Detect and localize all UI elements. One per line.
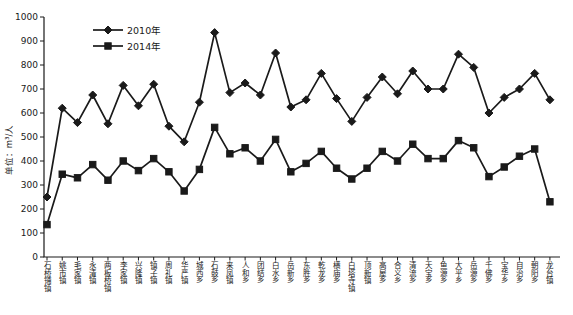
data-point-square [394, 158, 400, 164]
legend-label: 2010年 [127, 25, 161, 36]
data-point-square [135, 167, 141, 173]
water-per-capita-line-chart: 01002003004005006007008009001000单位：m³/人石… [0, 0, 573, 315]
y-tick-label: 0 [32, 252, 38, 262]
y-tick-label: 900 [21, 36, 38, 46]
data-point-square [59, 171, 65, 177]
x-category-label: 岳源乡 [470, 260, 478, 285]
data-point-diamond [226, 89, 234, 97]
data-point-square [349, 176, 355, 182]
x-category-label: 高屋乡 [379, 260, 387, 285]
y-tick-label: 1000 [15, 12, 38, 22]
x-category-label: 自治乡 [516, 260, 524, 285]
legend-diamond-icon [104, 26, 112, 34]
data-point-square [425, 155, 431, 161]
legend-label: 2014年 [127, 41, 161, 52]
y-axis-title: 单位：m³/人 [4, 125, 14, 176]
y-tick-label: 800 [21, 60, 38, 70]
data-point-square [196, 166, 202, 172]
x-category-label: 兴隆镇 [135, 261, 143, 285]
x-category-label: 华严镇 [181, 260, 189, 285]
x-category-label: 白塔寺镇 [348, 260, 356, 293]
y-tick-label: 300 [21, 180, 38, 190]
y-tick-label: 200 [21, 204, 38, 214]
data-point-square [120, 158, 126, 164]
data-point-square [211, 124, 217, 130]
data-point-square [333, 165, 339, 171]
data-point-square [379, 148, 385, 154]
x-category-label: 人和乡 [242, 261, 250, 285]
data-point-square [288, 169, 294, 175]
x-category-label: 清流乡 [409, 260, 417, 285]
y-tick-label: 700 [21, 84, 38, 94]
data-point-square [150, 155, 156, 161]
data-point-diamond [211, 29, 219, 37]
data-point-diamond [546, 96, 554, 104]
x-category-label: 朝阳乡 [531, 261, 538, 285]
data-point-square [471, 145, 477, 151]
y-tick-label: 400 [21, 156, 38, 166]
x-category-label: 鱼源乡 [440, 260, 448, 285]
x-category-label: 龙台镇 [546, 260, 554, 285]
x-category-label: 宝华乡 [501, 260, 509, 285]
chart-canvas: 01002003004005006007008009001000单位：m³/人石… [0, 0, 573, 315]
data-point-square [364, 165, 370, 171]
data-point-diamond [317, 69, 325, 77]
x-category-label: 来凤镇 [226, 261, 234, 285]
x-category-label: 乾龙乡 [318, 260, 326, 285]
x-category-label: 东胜乡 [303, 260, 311, 285]
axes [44, 17, 560, 257]
data-point-square [440, 155, 446, 161]
x-category-label: 姚市镇 [59, 260, 67, 285]
x-category-label: 天宝乡 [425, 261, 433, 285]
data-point-square [181, 188, 187, 194]
data-point-square [257, 158, 263, 164]
x-category-label: 李家镇 [120, 260, 128, 285]
data-point-square [531, 146, 537, 152]
data-point-square [455, 137, 461, 143]
x-category-label: 岳新乡 [287, 260, 295, 285]
y-tick-label: 500 [21, 132, 38, 142]
x-category-label: 永清镇 [89, 260, 97, 285]
data-point-square [516, 153, 522, 159]
data-point-diamond [287, 103, 295, 111]
data-point-square [44, 221, 50, 227]
y-tick-label: 100 [21, 228, 38, 238]
y-tick-label: 600 [21, 108, 38, 118]
x-category-label: 横庙乡 [333, 260, 341, 285]
x-category-label: 大平乡 [455, 260, 463, 285]
data-point-square [318, 148, 324, 154]
data-point-square [90, 161, 96, 167]
data-point-diamond [89, 91, 97, 99]
data-point-square [242, 145, 248, 151]
data-point-square [166, 169, 172, 175]
legend-square-icon [105, 43, 111, 49]
data-point-square [105, 177, 111, 183]
data-point-square [486, 173, 492, 179]
x-category-label: 两板桥镇 [104, 261, 112, 293]
data-point-diamond [439, 85, 447, 93]
series-line-2014年 [47, 127, 550, 224]
x-category-label: 白水乡 [272, 260, 280, 285]
series-line-2010年 [47, 33, 550, 197]
data-point-diamond [195, 98, 203, 106]
x-category-label: 毛家镇 [74, 260, 82, 285]
x-category-label: 城西乡 [196, 261, 204, 285]
data-point-square [303, 160, 309, 166]
x-category-label: 千佛乡 [485, 260, 493, 285]
data-point-diamond [104, 120, 112, 128]
x-category-label: 周礼镇 [165, 261, 173, 285]
data-point-square [227, 151, 233, 157]
data-point-diamond [272, 49, 280, 57]
data-point-square [410, 141, 416, 147]
x-category-label: 顶新镇 [364, 261, 372, 285]
x-category-label: 石桥铺镇 [44, 261, 52, 293]
data-point-square [74, 175, 80, 181]
data-point-diamond [302, 96, 310, 104]
data-point-square [272, 136, 278, 142]
x-category-label: 合义乡 [394, 260, 402, 285]
data-point-square [501, 164, 507, 170]
x-category-label: 镇子镇 [150, 260, 158, 285]
x-category-label: 石鼓乡 [211, 261, 219, 285]
x-category-label: 团结乡 [257, 261, 265, 285]
data-point-square [547, 199, 553, 205]
